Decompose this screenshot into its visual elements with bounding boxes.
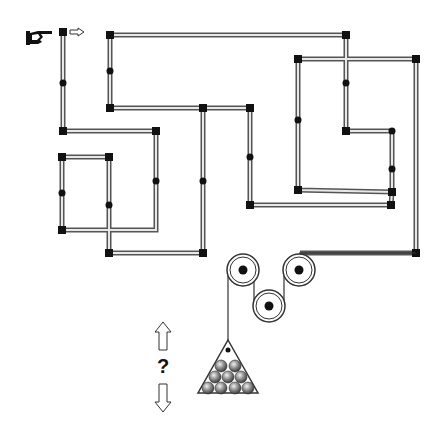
arrow-up-icon[interactable]: [155, 322, 171, 350]
question-mark: ?: [157, 355, 169, 378]
start-node[interactable]: [59, 28, 67, 36]
pulley-left: [227, 254, 259, 286]
pipe-network: [62, 32, 416, 253]
pulley-bottom: [253, 290, 285, 322]
arrow-down-icon[interactable]: [155, 384, 171, 412]
pulley-right: [283, 254, 315, 286]
ball-weight: [198, 340, 258, 394]
maze-pulley-puzzle: [0, 0, 443, 435]
arrow-right-icon: [70, 28, 84, 36]
pointing-hand-icon: [26, 31, 52, 45]
